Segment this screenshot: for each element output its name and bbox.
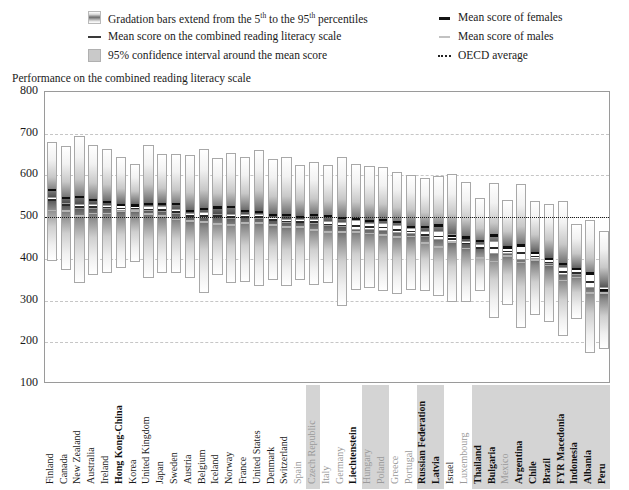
bar-ireland	[102, 149, 112, 274]
mean-score-line	[89, 206, 97, 208]
mean-score-line	[158, 209, 166, 211]
country-label-austria: Austria	[183, 455, 193, 484]
mean-score-line	[365, 226, 373, 228]
male-mean-line	[365, 233, 373, 235]
bar-finland	[47, 142, 57, 262]
oecd-average-swatch-icon	[438, 49, 451, 62]
female-mean-line	[586, 272, 594, 274]
country-label-bulgaria: Bulgaria	[487, 447, 497, 484]
female-mean-line	[545, 258, 553, 260]
female-mean-line	[490, 234, 498, 236]
mean-score-line	[324, 224, 332, 226]
female-mean-line	[282, 214, 290, 216]
mean-score-line	[144, 209, 152, 211]
female-mean-line	[365, 220, 373, 222]
mean-score-line	[62, 204, 70, 206]
bar-united-states	[254, 150, 264, 286]
mean-score-line	[338, 225, 346, 227]
plot-area	[44, 91, 610, 383]
country-label-israel: Israel	[445, 462, 455, 484]
bar-peru	[599, 231, 609, 349]
female-mean-line	[407, 226, 415, 228]
female-mean-line	[75, 196, 83, 198]
country-label-portugal: Portugal	[404, 450, 414, 484]
gridline	[45, 342, 609, 343]
reading-literacy-chart: Gradation bars extend from the 5th to th…	[0, 0, 629, 490]
bar-latvia	[433, 176, 443, 296]
country-label-italy: Italy	[321, 466, 331, 484]
female-mean-line	[186, 210, 194, 212]
country-label-thailand: Thailand	[473, 445, 483, 484]
bar-fyr-macedonia	[558, 201, 568, 337]
male-mean-line	[241, 222, 249, 224]
mean-line-swatch-icon	[88, 30, 101, 43]
mean-score-line	[531, 256, 539, 258]
mean-score-line	[421, 234, 429, 236]
country-label-korea: Korea	[128, 460, 138, 484]
female-mean-line	[379, 219, 387, 221]
female-mean-swatch-icon	[438, 11, 451, 24]
gradient-swatch-icon	[88, 11, 101, 24]
legend-item-confidence-interval: 95% confidence interval around the mean …	[88, 46, 418, 64]
bar-austria	[185, 155, 195, 278]
bar-spain	[295, 165, 305, 280]
female-mean-line	[172, 203, 180, 205]
bar-poland	[378, 167, 388, 291]
legend-column-right: Mean score of females Mean score of male…	[438, 8, 628, 65]
bar-portugal	[406, 175, 416, 291]
y-tick-500: 500	[4, 208, 38, 223]
country-label-latvia: Latvia	[431, 456, 441, 484]
country-label-united-states: United States	[252, 430, 262, 484]
mean-score-line	[310, 221, 318, 223]
y-axis-title: Performance on the combined reading lite…	[12, 72, 251, 84]
male-mean-line	[172, 219, 180, 221]
bar-brazil	[544, 204, 554, 322]
country-label-new-zealand: New Zealand	[72, 430, 82, 484]
mean-score-line	[379, 227, 387, 229]
male-mean-line	[600, 292, 608, 294]
chart-legend: Gradation bars extend from the 5th to th…	[88, 8, 618, 66]
country-label-fyr-macedonia: FYR Macedonia	[556, 414, 566, 484]
bar-gradient	[75, 137, 83, 282]
female-mean-line	[476, 240, 484, 242]
bar-greece	[392, 172, 402, 294]
mean-score-line	[545, 262, 553, 264]
male-mean-line	[269, 224, 277, 226]
bar-new-zealand	[74, 136, 84, 283]
male-mean-line	[490, 261, 498, 263]
mean-score-line	[407, 231, 415, 233]
bar-united-kingdom	[143, 145, 153, 277]
male-mean-line	[144, 213, 152, 215]
country-label-russian-federation: Russian Federation	[417, 401, 427, 484]
female-mean-line	[200, 208, 208, 210]
male-mean-line	[89, 213, 97, 215]
mean-score-line	[131, 208, 139, 210]
female-mean-line	[531, 252, 539, 254]
bar-liechtenstein	[351, 164, 361, 290]
female-mean-line	[503, 246, 511, 248]
male-mean-line	[462, 248, 470, 250]
female-mean-line	[434, 224, 442, 226]
male-mean-line	[545, 265, 553, 267]
bar-germany	[337, 157, 347, 306]
female-mean-line	[158, 203, 166, 205]
bar-israel	[447, 174, 457, 302]
female-mean-line	[448, 235, 456, 237]
legend-item-gradation-bars: Gradation bars extend from the 5th to th…	[88, 8, 418, 26]
oecd-average-line	[45, 217, 609, 218]
y-tick-600: 600	[4, 166, 38, 181]
country-label-argentina: Argentina	[514, 441, 524, 484]
male-mean-line	[517, 262, 525, 264]
country-label-liechtenstein: Liechtenstein	[348, 427, 358, 484]
mean-score-line	[448, 238, 456, 240]
female-mean-line	[89, 199, 97, 201]
country-label-germany: Germany	[335, 447, 345, 484]
bar-australia	[88, 145, 98, 275]
female-mean-line	[255, 211, 263, 213]
male-mean-line	[296, 226, 304, 228]
bar-gradient	[48, 143, 56, 261]
country-label-finland: Finland	[45, 453, 55, 484]
female-mean-line	[600, 289, 608, 291]
bar-korea	[130, 164, 140, 262]
country-label-czech-republic: Czech Republic	[307, 420, 317, 484]
